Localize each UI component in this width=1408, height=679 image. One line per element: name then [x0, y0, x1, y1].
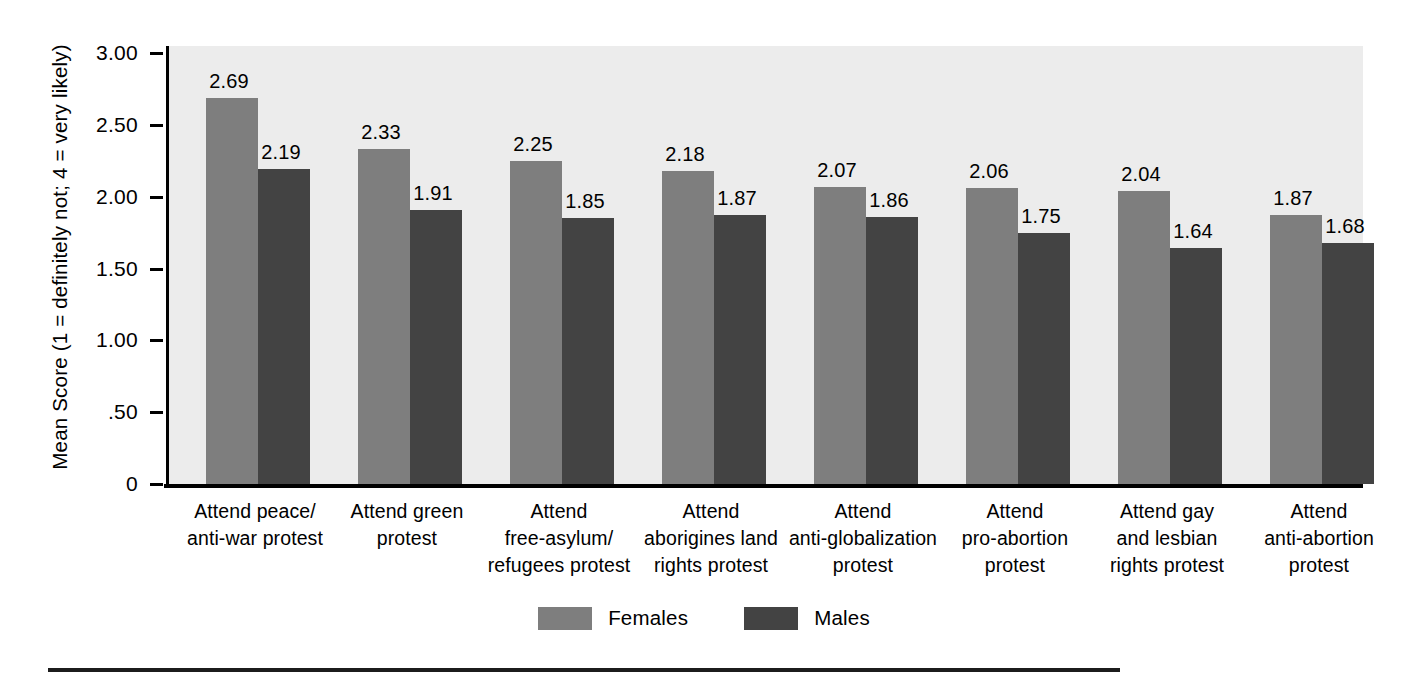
bar-value-label: 1.87: [1258, 188, 1328, 208]
bar-males: [1170, 248, 1222, 484]
bar-females: [814, 187, 866, 484]
y-tick-label: 1.50: [66, 258, 138, 279]
legend-label: Females: [608, 608, 688, 629]
y-tick-label: 1.00: [66, 329, 138, 350]
bar-value-label: 2.69: [194, 71, 264, 91]
y-tick-label: .50: [66, 401, 138, 422]
bar-value-label: 1.68: [1310, 216, 1380, 236]
bar-value-label: 2.06: [954, 161, 1024, 181]
bar-value-label: 2.18: [650, 144, 720, 164]
bar-males: [866, 217, 918, 484]
y-tick-mark: [150, 196, 163, 199]
bar-males: [1322, 243, 1374, 484]
bar-value-label: 2.07: [802, 160, 872, 180]
legend-item-males: Males: [744, 607, 870, 630]
y-tick-mark: [150, 411, 163, 414]
bottom-divider-rule: [48, 668, 1120, 672]
bar-value-label: 2.25: [498, 134, 568, 154]
legend-swatch: [538, 607, 592, 630]
bar-value-label: 2.19: [246, 142, 316, 162]
y-tick-mark: [150, 339, 163, 342]
x-category-label-line: protest: [1224, 552, 1408, 579]
y-tick-mark: [150, 483, 163, 486]
legend-swatch: [744, 607, 798, 630]
y-tick-label: 2.00: [66, 186, 138, 207]
bar-males: [714, 215, 766, 484]
bar-value-label: 1.86: [854, 190, 924, 210]
bar-chart-figure: Mean Score (1 = definitely not; 4 = very…: [0, 0, 1408, 679]
bar-males: [1018, 233, 1070, 484]
y-tick-label: 3.00: [66, 42, 138, 63]
legend-label: Males: [814, 608, 870, 629]
bar-value-label: 2.33: [346, 122, 416, 142]
bar-females: [662, 171, 714, 484]
bar-value-label: 1.91: [398, 183, 468, 203]
bar-value-label: 2.04: [1106, 164, 1176, 184]
bar-females: [1270, 215, 1322, 484]
legend-item-females: Females: [538, 607, 688, 630]
x-category-label-line: Attend: [1224, 498, 1408, 525]
x-category-label-line: anti-abortion: [1224, 525, 1408, 552]
plot-area: [166, 46, 1363, 484]
bar-females: [966, 188, 1018, 484]
x-category-label: Attendanti-abortionprotest: [1224, 498, 1408, 579]
bar-males: [562, 218, 614, 484]
y-tick-label: 0: [66, 473, 138, 494]
y-tick-label: 2.50: [66, 114, 138, 135]
bar-value-label: 1.64: [1158, 221, 1228, 241]
y-tick-mark: [150, 52, 163, 55]
bar-males: [258, 169, 310, 484]
bar-males: [410, 210, 462, 484]
chart-legend: FemalesMales: [0, 607, 1408, 630]
bar-value-label: 1.75: [1006, 206, 1076, 226]
y-tick-mark: [150, 268, 163, 271]
y-tick-mark: [150, 124, 163, 127]
bar-value-label: 1.85: [550, 191, 620, 211]
x-axis-baseline: [164, 484, 1363, 488]
bar-value-label: 1.87: [702, 188, 772, 208]
